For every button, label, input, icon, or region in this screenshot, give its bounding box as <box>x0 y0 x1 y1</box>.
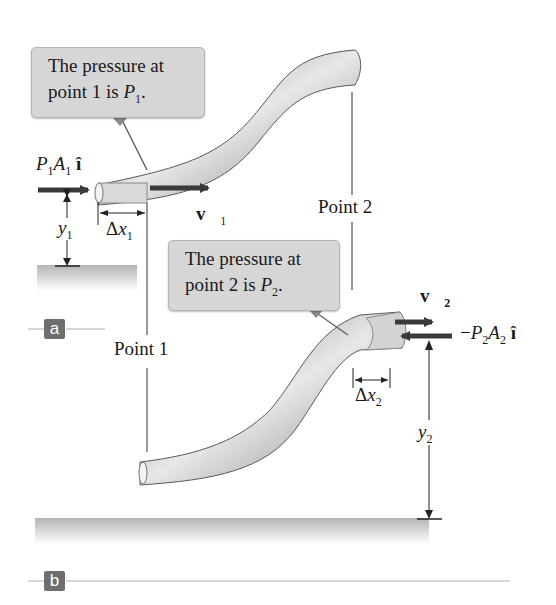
point-2-label: Point 2 <box>318 196 372 218</box>
ground-a <box>37 265 137 291</box>
point-1-label: Point 1 <box>114 338 168 360</box>
displacement-label-1: Δx1 <box>106 218 133 244</box>
height-label-1: y1 <box>58 217 72 243</box>
ground-b <box>35 518 429 544</box>
callout-1-line-1: The pressure at <box>48 53 194 79</box>
callout-2-line-1: The pressure at <box>185 246 329 272</box>
force-label-1: P1A1 î <box>36 153 81 179</box>
callout-pressure-point-1: The pressure at point 1 is P1. <box>31 47 205 118</box>
fluid-slug-1 <box>99 183 147 203</box>
bernoulli-pipe-diagram: The pressure at point 1 is P1. The press… <box>0 0 556 605</box>
velocity-label-2: v⃗2 <box>420 285 450 311</box>
callout-1-pointer <box>122 120 147 170</box>
panel-a-badge: a <box>44 319 65 339</box>
panel-b-badge: b <box>44 571 65 591</box>
callout-1-line-2: point 1 is P1. <box>48 79 194 112</box>
callout-pressure-point-2: The pressure at point 2 is P2. <box>168 240 340 311</box>
height-label-2: y2 <box>418 421 432 447</box>
force-label-2: −P2A2 î <box>460 322 516 348</box>
callout-2-line-2: point 2 is P2. <box>185 272 329 305</box>
velocity-label-1: v⃗1 <box>196 203 226 229</box>
displacement-label-2: Δx2 <box>355 384 382 410</box>
